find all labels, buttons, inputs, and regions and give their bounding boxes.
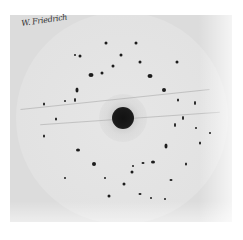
diffraction-spot [92,162,96,166]
diffraction-spot [199,142,201,145]
diffraction-spot [194,101,196,105]
diffraction-spot [139,193,142,195]
diffraction-spot [176,61,179,64]
diffraction-spot [123,183,126,186]
diffraction-spot [132,165,134,167]
diffraction-spot [79,55,82,58]
diffraction-spot [182,116,184,120]
diffraction-spot [135,42,138,45]
diffraction-spot [131,171,134,174]
diffraction-spot [101,72,104,75]
diffraction-spot [89,73,94,77]
diffraction-spot [64,100,66,102]
diffraction-spot [142,162,145,164]
diffraction-spot [55,118,57,121]
diffraction-spot [209,132,211,134]
diffraction-spot [148,74,153,78]
diffraction-spot [43,135,45,138]
central-beam-spot [112,107,134,129]
diffraction-spot [43,103,45,106]
diffraction-spot [174,123,176,127]
diffraction-spot [165,144,168,149]
diffraction-spot [139,61,142,64]
diffraction-spot [104,177,106,179]
diffraction-spot [105,42,108,45]
diffraction-spot [112,65,115,68]
diffraction-spot [185,163,187,166]
diffraction-spot [195,127,197,129]
diffraction-spot [120,54,123,57]
diffraction-spot [151,161,155,164]
diffraction-spot [74,54,76,56]
diffraction-spot [170,179,173,181]
diffraction-spot [162,88,166,92]
diffraction-spot [108,195,111,198]
diffraction-spot [150,197,152,199]
diffraction-spot [177,99,179,102]
diffraction-spot [76,88,79,93]
diffraction-spot [64,177,66,179]
diffraction-spot [164,198,166,200]
diffraction-spot [76,149,80,152]
diffraction-spot [74,98,76,102]
